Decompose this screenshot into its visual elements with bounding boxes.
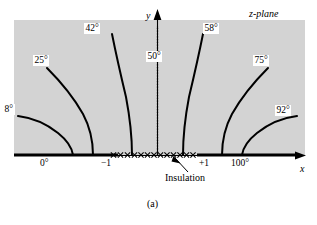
figure-container: z-plane y x 8° 25° 42° 50° 58° 75° 92° 0… [0, 0, 317, 225]
isotherm-label-8: 8° [3, 104, 15, 115]
boundary-label-right-plate: 100° [231, 158, 249, 169]
boundary-tick-label-plus-one: +1 [199, 158, 209, 169]
isotherm-label-50: 50° [146, 51, 162, 62]
boundary-label-left-plate: 0° [40, 158, 49, 169]
insulation-leader-arrow [172, 156, 189, 172]
shaded-field [14, 20, 305, 155]
isotherm-label-75: 75° [253, 55, 269, 66]
complex-plane-diagram [0, 0, 317, 225]
figure-caption: (a) [147, 198, 158, 209]
x-axis-label: x [300, 163, 304, 174]
isotherm-label-92: 92° [275, 105, 291, 116]
isotherm-label-25: 25° [33, 55, 49, 66]
isotherm-label-42: 42° [84, 23, 100, 34]
y-axis-label: y [146, 10, 150, 21]
insulation-annotation-label: Insulation [165, 172, 205, 183]
plane-label: z-plane [249, 8, 278, 19]
isotherm-label-58: 58° [203, 23, 219, 34]
boundary-tick-label-minus-one: −1 [101, 158, 111, 169]
y-axis-arrowhead [154, 9, 162, 20]
